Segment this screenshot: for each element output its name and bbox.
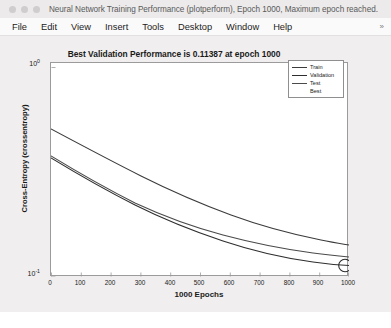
menu-file[interactable]: File <box>5 22 34 32</box>
y-axis-ticks <box>52 68 56 278</box>
menu-view[interactable]: View <box>64 22 98 32</box>
x-axis-label: 1000 Epochs <box>50 290 348 299</box>
test-curve <box>51 156 349 257</box>
legend-item-best[interactable]: Best <box>289 87 343 95</box>
close-button[interactable] <box>9 6 16 13</box>
menu-insert[interactable]: Insert <box>98 22 135 32</box>
menu-window[interactable]: Window <box>219 22 266 32</box>
legend-swatch-train <box>292 67 307 68</box>
x-tick-label-1000: 1000 <box>333 279 363 286</box>
legend-item-train[interactable]: Train <box>289 63 343 71</box>
x-tick-label-300: 300 <box>125 279 155 286</box>
menu-bar: File Edit View Insert Tools Desktop Wind… <box>0 18 391 36</box>
x-axis-ticks <box>52 273 349 277</box>
x-tick-label-200: 200 <box>95 279 125 286</box>
legend-label-best: Best <box>310 87 321 95</box>
chart-legend[interactable]: Train Validation Test Best <box>288 60 344 98</box>
chevron-down-icon[interactable]: » <box>380 22 384 31</box>
y-tick-label-1e-1: 10-1 <box>6 268 40 277</box>
y-tick-label-1e0: 100 <box>6 58 40 67</box>
x-tick-label-0: 0 <box>35 279 65 286</box>
x-tick-label-800: 800 <box>274 279 304 286</box>
legend-label-test: Test <box>310 79 320 87</box>
validation-curve <box>51 158 349 266</box>
minimize-button[interactable] <box>21 6 28 13</box>
menu-help[interactable]: Help <box>266 22 299 32</box>
legend-swatch-test <box>292 83 307 84</box>
x-tick-label-900: 900 <box>303 279 333 286</box>
x-tick-label-100: 100 <box>65 279 95 286</box>
zoom-button[interactable] <box>33 6 40 13</box>
x-tick-label-400: 400 <box>155 279 185 286</box>
x-tick-label-500: 500 <box>184 279 214 286</box>
legend-item-test[interactable]: Test <box>289 79 343 87</box>
train-curve <box>51 129 349 245</box>
menu-desktop[interactable]: Desktop <box>171 22 219 32</box>
window-titlebar: Neural Network Training Performance (plo… <box>0 0 391 19</box>
menu-edit[interactable]: Edit <box>34 22 64 32</box>
legend-label-validation: Validation <box>310 71 334 79</box>
window-title: Neural Network Training Performance (plo… <box>49 5 378 14</box>
figure-window: Neural Network Training Performance (plo… <box>0 0 391 328</box>
figure-canvas: Best Validation Performance is 0.11387 a… <box>0 36 391 312</box>
legend-swatch-best <box>292 91 307 92</box>
legend-item-validation[interactable]: Validation <box>289 71 343 79</box>
menu-tools[interactable]: Tools <box>135 22 171 32</box>
chart-title: Best Validation Performance is 0.11387 a… <box>0 49 348 59</box>
legend-label-train: Train <box>310 63 323 71</box>
x-tick-label-700: 700 <box>244 279 274 286</box>
y-axis-label: Cross-Entropy (crossentropy) <box>20 79 29 239</box>
x-tick-label-600: 600 <box>214 279 244 286</box>
legend-swatch-validation <box>292 75 307 76</box>
